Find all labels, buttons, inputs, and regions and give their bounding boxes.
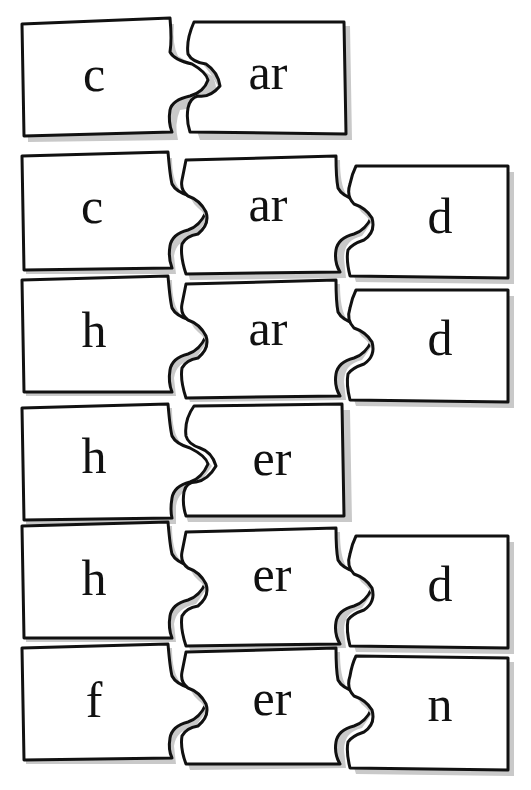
piece-text: f	[86, 672, 103, 728]
piece-text: ar	[249, 44, 288, 100]
puzzle-piece[interactable]: d	[347, 166, 514, 284]
piece-text: ar	[249, 300, 288, 356]
puzzle-row-5: h er d	[22, 522, 514, 654]
piece-text: er	[253, 430, 292, 486]
puzzle-piece[interactable]: n	[347, 656, 514, 776]
puzzle-row-1: c ar	[22, 18, 352, 142]
piece-text: h	[82, 302, 107, 358]
piece-text: h	[82, 428, 107, 484]
piece-text: d	[428, 310, 453, 366]
piece-text: d	[428, 188, 453, 244]
puzzle-piece[interactable]: d	[347, 290, 514, 408]
piece-text: ar	[249, 176, 288, 232]
piece-text: er	[253, 670, 292, 726]
piece-text: c	[81, 178, 103, 234]
puzzle-row-6: f er n	[22, 644, 514, 776]
piece-text: h	[82, 550, 107, 606]
puzzle-piece[interactable]: d	[347, 536, 514, 654]
piece-text: er	[253, 546, 292, 602]
puzzle-row-3: h ar d	[22, 276, 514, 408]
piece-text: n	[428, 676, 453, 732]
puzzle-row-4: h er	[22, 404, 352, 524]
piece-text: d	[428, 556, 453, 612]
piece-text: c	[83, 46, 105, 102]
puzzle-board: c ar c ar d h	[0, 0, 531, 790]
puzzle-row-2: c ar d	[22, 152, 514, 284]
